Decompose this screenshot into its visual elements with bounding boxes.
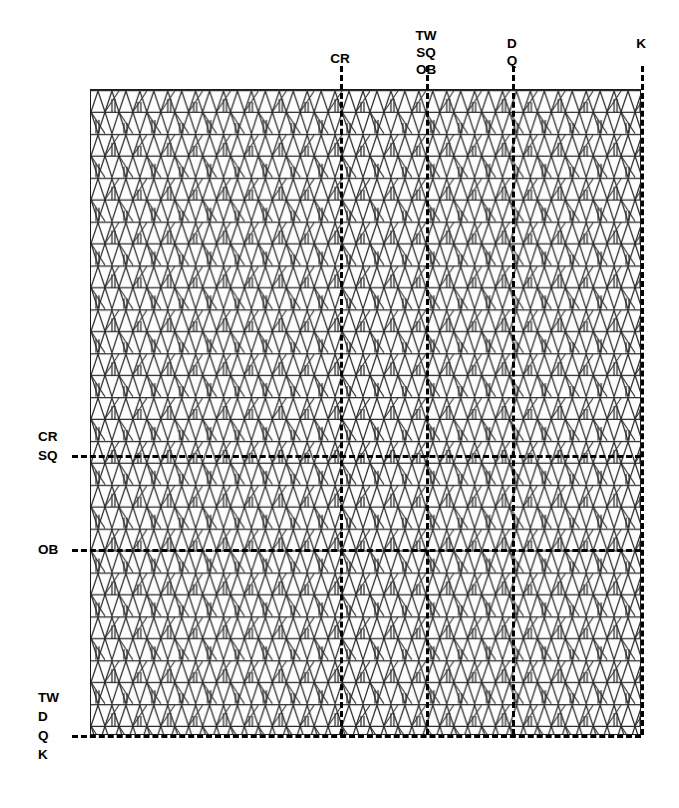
left-label-tw-d-q-k: TW D Q K [38, 688, 59, 764]
horizontal-marker-cr-sq [72, 455, 641, 458]
left-label-cr-sq: CR SQ [38, 427, 58, 465]
left-label-ob: OB [38, 540, 58, 559]
top-label-d-q: D Q [507, 35, 518, 69]
vertical-marker-tw-sq-ob [426, 66, 429, 735]
vertical-marker-d-q [512, 66, 515, 735]
horizontal-marker-tw-d-q-k [72, 735, 641, 738]
triangular-mesh-pattern [91, 90, 640, 734]
figure-canvas: CR TW SQ OB D Q K CR SQ OB TW D Q K [0, 0, 679, 808]
vertical-marker-cr [340, 66, 343, 735]
plot-area [90, 89, 641, 735]
top-label-cr: CR [330, 50, 350, 67]
top-label-k: K [636, 35, 646, 52]
horizontal-marker-ob [72, 549, 641, 552]
vertical-marker-k [641, 66, 644, 735]
